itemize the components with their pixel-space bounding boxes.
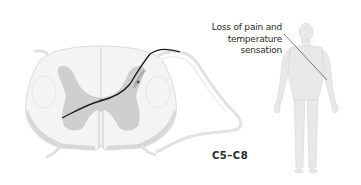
human-body-figure [274,23,338,173]
right-arm [322,49,336,106]
callout-line-3: sensation [196,45,282,57]
spinal-cord-diagram [0,0,361,185]
spinal-segment-label: C5–C8 [212,150,248,161]
callout-line-2: temperature [196,34,282,46]
left-hand [274,103,280,113]
left-arm [276,49,290,106]
neck [302,40,310,46]
left-leg [294,100,305,168]
ventral-root-left [46,146,60,157]
callout-label: Loss of pain and temperature sensation [196,22,282,57]
right-leg [307,100,318,168]
spinal-cord-cross-section [26,46,177,157]
left-foot [295,169,303,173]
torso [288,46,324,100]
dorsal-root-left [34,51,48,54]
right-hand [332,103,338,113]
right-foot [309,169,317,173]
callout-line-1: Loss of pain and [196,22,282,34]
ventral-root-right [142,146,156,155]
head [299,23,313,41]
